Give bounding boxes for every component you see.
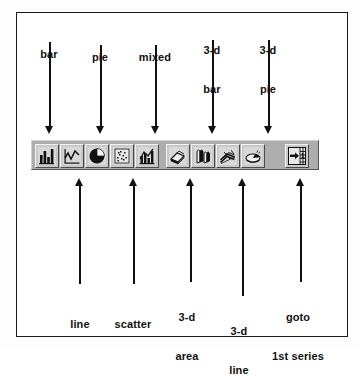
callout-arrow-pie (96, 45, 105, 134)
callout-label-3d-area-line2: area (167, 350, 207, 363)
callout-arrow-3d-bar (208, 40, 217, 134)
graph-toolbar[interactable]: 1 (31, 140, 319, 170)
callout-arrow-mixed (151, 45, 160, 134)
toolbar-button-line[interactable] (60, 144, 84, 168)
callout-label-goto-line1: goto (267, 311, 329, 324)
toolbar-button-bar[interactable] (35, 144, 59, 168)
callout-label-3d-line-line2: line (219, 364, 259, 377)
callout-label-line: line (60, 292, 100, 357)
mixed-chart-icon (137, 146, 157, 166)
callout-arrow-bar (45, 42, 54, 134)
toolbar-button-goto-first-series[interactable]: 1 (285, 144, 309, 168)
toolbar-group-3d-charts (166, 144, 266, 168)
toolbar-group-2d-charts (35, 144, 160, 168)
bar-chart-icon (37, 146, 57, 166)
3d-line-chart-icon (218, 146, 238, 166)
callout-label-3d-line-line1: 3-d (219, 325, 259, 338)
toolbar-button-mixed[interactable] (135, 144, 159, 168)
callout-arrow-line (75, 178, 84, 284)
goto-first-series-icon: 1 (287, 146, 307, 166)
callout-arrow-3d-line (238, 178, 247, 296)
callout-label-3d-area: 3-d area (167, 285, 207, 378)
3d-bar-chart-icon (193, 146, 213, 166)
callout-label-scatter-line1: scatter (108, 318, 158, 331)
toolbar-button-pie[interactable] (85, 144, 109, 168)
line-chart-icon (62, 146, 82, 166)
3d-pie-chart-icon (243, 146, 263, 166)
callout-label-3d-line: 3-d line (219, 299, 259, 378)
toolbar-button-scatter[interactable] (110, 144, 134, 168)
callout-label-goto-line2: 1st series (267, 350, 329, 363)
callout-arrow-3d-area (186, 178, 195, 282)
callout-label-goto-first-series: goto 1st series (267, 285, 329, 378)
callout-arrow-goto-first-series (296, 178, 305, 282)
scatter-plot-icon (112, 146, 132, 166)
toolbar-button-3d-line[interactable] (216, 144, 240, 168)
toolbar-button-3d-pie[interactable] (241, 144, 265, 168)
toolbar-button-3d-bar[interactable] (191, 144, 215, 168)
callout-arrow-scatter (129, 178, 138, 284)
toolbar-group-navigation: 1 (285, 144, 310, 168)
svg-text:1: 1 (301, 152, 305, 159)
3d-area-chart-icon (168, 146, 188, 166)
callout-arrow-3d-pie (264, 40, 273, 134)
callout-label-scatter: scatter (108, 292, 158, 357)
toolbar-button-3d-area[interactable] (166, 144, 190, 168)
callout-label-3d-area-line1: 3-d (167, 311, 207, 324)
pie-chart-icon (87, 146, 107, 166)
callout-label-line-line1: line (60, 318, 100, 331)
